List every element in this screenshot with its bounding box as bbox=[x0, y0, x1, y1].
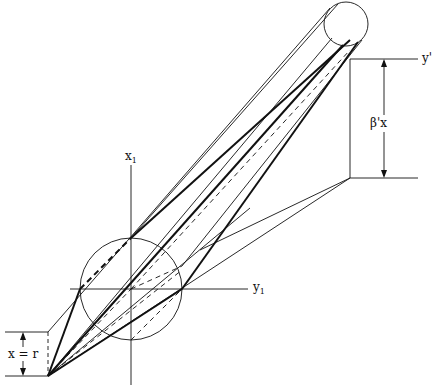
heavy-line bbox=[182, 42, 358, 289]
thin-line bbox=[131, 4, 338, 238]
x-equals-r-label: x = r bbox=[8, 347, 38, 361]
arrowhead bbox=[20, 332, 26, 340]
dashed-line bbox=[131, 289, 182, 340]
arrowhead bbox=[20, 368, 26, 376]
diagram-canvas bbox=[0, 0, 435, 385]
beta-x-label: β'x bbox=[370, 116, 387, 130]
x1-axis-label: x1 bbox=[125, 149, 137, 165]
arrowhead bbox=[381, 59, 387, 67]
y-prime-label: y' bbox=[422, 51, 432, 65]
heavy-line bbox=[48, 45, 343, 376]
heavy-dashed bbox=[80, 238, 131, 289]
arrowhead bbox=[381, 170, 387, 178]
y1-axis-label: y1 bbox=[253, 280, 265, 296]
dashed-line bbox=[131, 50, 350, 289]
